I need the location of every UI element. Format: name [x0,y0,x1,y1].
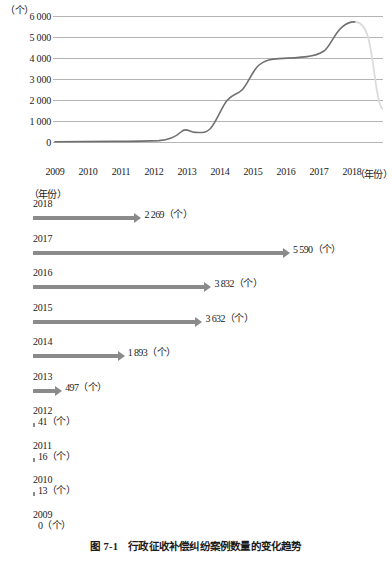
bar-row-bar [33,419,35,431]
x-tick-2014: 2014 [211,166,230,177]
bar-row-value-label: 16（个） [38,452,75,462]
line-chart-x-axis-unit: （年份） [355,166,392,181]
bar-row-value-label: 497（个） [65,383,106,393]
bar-arrow-head-icon [118,351,125,361]
bar-row: 20182 269（个） [0,199,392,232]
bar-row: 20163 832（个） [0,268,392,301]
bar-row-value-label: 13（个） [38,486,75,496]
bar-row-year-label: 2017 [33,234,52,244]
y-tick-5000: 5 000 [5,33,51,43]
bar-row-value-label: 1 893（个） [128,348,176,358]
x-tick-2017: 2017 [310,166,329,177]
figure-caption-number: 图 7-1 [90,541,118,552]
bar-row-bar [33,316,195,328]
x-tick-2016: 2016 [277,166,296,177]
bar-row-bar [33,212,134,224]
bar-row: 201241（个） [0,406,392,439]
bar-row-value-label: 41（个） [38,417,75,427]
bar-row-bar [33,385,55,397]
bar-row-year-label: 2012 [33,406,52,416]
line-chart-panel: （个） 6 000 5 000 4 000 3 000 2 000 1 000 … [0,0,392,186]
bar-row-bar [33,350,118,362]
bar-fill [33,354,118,358]
line-chart-plot-area [53,16,383,164]
bar-row-year-label: 2010 [33,475,52,485]
y-tick-2000: 2 000 [5,96,51,106]
y-tick-0: 0 [5,138,51,148]
line-chart-y-axis-ticks: 6 000 5 000 4 000 3 000 2 000 1 000 0 [0,0,51,186]
x-tick-2011: 2011 [112,166,130,177]
x-tick-2012: 2012 [145,166,164,177]
x-tick-2010: 2010 [79,166,98,177]
bar-arrow-head-icon [204,282,211,292]
y-tick-1000: 1 000 [5,117,51,127]
bar-row-bar [33,488,35,500]
bar-row-year-label: 2016 [33,268,52,278]
bar-row-bar [33,523,35,535]
bar-tick-marker [33,492,35,496]
bar-tick-marker [33,458,35,462]
bar-row-value-label: 0（个） [38,521,71,531]
line-chart-series-path [55,22,356,142]
figure-caption-title: 行政征收补偿纠纷案例数量的变化趋势 [128,541,301,552]
bar-arrow-head-icon [195,317,202,327]
bar-fill [33,251,283,255]
bar-row-year-label: 2018 [33,199,52,209]
bar-row: 20141 893（个） [0,337,392,370]
bar-arrow-head-icon [55,386,62,396]
line-chart-svg [53,16,383,164]
bar-row-value-label: 2 269（个） [144,210,192,220]
x-tick-2009: 2009 [46,166,65,177]
bar-row-year-label: 2009 [33,510,52,520]
bar-row-value-label: 5 590（个） [293,245,341,255]
y-tick-4000: 4 000 [5,54,51,64]
bar-row-bar [33,247,283,259]
bar-arrow-head-icon [134,213,141,223]
y-tick-3000: 3 000 [5,75,51,85]
bar-chart-panel: （年份） 20182 269（个）20175 590（个）20163 832（个… [0,186,392,531]
gridlines [53,17,383,143]
bar-tick-marker [33,423,35,427]
line-chart-x-axis-ticks: 2009 2010 2011 2012 2013 2014 2015 2016 … [0,166,392,184]
bar-row-year-label: 2011 [33,441,52,451]
bar-fill [33,216,134,220]
bar-row-value-label: 3 632（个） [205,314,253,324]
x-tick-2013: 2013 [178,166,197,177]
bar-row-value-label: 3 832（个） [214,279,262,289]
bar-row-year-label: 2014 [33,337,52,347]
bar-fill [33,285,204,289]
figure-caption: 图 7-1行政征收补偿纠纷案例数量的变化趋势 [0,538,392,553]
bar-row-year-label: 2013 [33,372,52,382]
bar-row-bar [33,281,204,293]
bar-row: 201013（个） [0,475,392,508]
bar-row: 20153 632（个） [0,303,392,336]
bar-row: 2013497（个） [0,372,392,405]
x-tick-2015: 2015 [244,166,263,177]
y-tick-6000: 6 000 [5,12,51,22]
line-chart-faded-tail-path [356,22,383,109]
bar-fill [33,320,195,324]
bar-row-year-label: 2015 [33,303,52,313]
bar-row-bar [33,454,35,466]
bar-row: 20175 590（个） [0,234,392,267]
bar-fill [33,389,55,393]
bar-row: 201116（个） [0,441,392,474]
bar-arrow-head-icon [283,248,290,258]
